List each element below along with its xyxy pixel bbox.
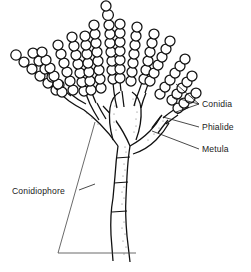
label-metula: Metula xyxy=(202,144,229,154)
conidiophore-figure: Conidia Phialide Metula Conidiophore xyxy=(0,0,251,272)
conidia-chains xyxy=(11,1,201,113)
label-phialide: Phialide xyxy=(202,122,234,132)
label-conidia: Conidia xyxy=(202,99,232,109)
conidia-chain xyxy=(115,19,125,83)
conidiophore-diagram: Conidia Phialide Metula Conidiophore xyxy=(0,0,251,272)
label-conidiophore: Conidiophore xyxy=(12,186,65,196)
conidiophore-bracket xyxy=(58,122,136,253)
conidiophore-stalk xyxy=(111,146,130,262)
